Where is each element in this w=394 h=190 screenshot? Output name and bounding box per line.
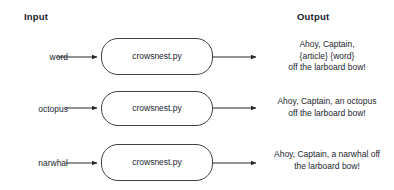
output-text: Ahoy, Captain, {article} {word} off the … — [262, 39, 392, 74]
input-label: narwhal — [38, 159, 68, 168]
process-node[interactable]: crowsnest.py — [101, 38, 213, 75]
process-node-label: crowsnest.py — [132, 104, 182, 113]
output-line: the larboard bow! — [262, 161, 392, 173]
flow-diagram: Input Output word crowsnest.py Ahoy, Cap… — [0, 0, 394, 190]
output-line: off the larboard bow! — [262, 108, 392, 120]
input-label: octopus — [38, 105, 68, 114]
process-node-label: crowsnest.py — [132, 52, 182, 61]
process-node[interactable]: crowsnest.py — [101, 91, 213, 126]
output-text: Ahoy, Captain, an octopus off the larboa… — [262, 96, 392, 119]
output-line: Ahoy, Captain, — [262, 39, 392, 51]
flow-row: word crowsnest.py Ahoy, Captain, {articl… — [0, 38, 394, 76]
input-label: word — [50, 53, 68, 62]
output-line: Ahoy, Captain, a narwhal off — [262, 149, 392, 161]
column-header-input: Input — [24, 11, 48, 22]
output-text: Ahoy, Captain, a narwhal off the larboar… — [262, 149, 392, 172]
output-line: Ahoy, Captain, an octopus — [262, 96, 392, 108]
process-node-label: crowsnest.py — [132, 158, 182, 167]
flow-row: narwhal crowsnest.py Ahoy, Captain, a na… — [0, 144, 394, 182]
output-line: {article} {word} — [262, 51, 392, 63]
process-node[interactable]: crowsnest.py — [101, 144, 213, 181]
flow-row: octopus crowsnest.py Ahoy, Captain, an o… — [0, 91, 394, 127]
column-header-output: Output — [297, 11, 329, 22]
output-line: off the larboard bow! — [262, 62, 392, 74]
